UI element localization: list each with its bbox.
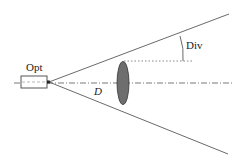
diameter-label: D xyxy=(93,85,102,97)
lower-beam-ray xyxy=(49,82,228,154)
divergence-angle-arc xyxy=(180,36,183,61)
source-label: Opt xyxy=(26,61,43,73)
beam-divergence-diagram: Opt Div D xyxy=(0,0,244,166)
lens xyxy=(117,62,129,105)
divergence-label: Div xyxy=(186,39,203,51)
